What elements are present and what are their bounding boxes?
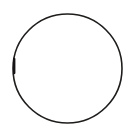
bottom-right-gap-accent (105, 117, 112, 122)
circle-figure (0, 0, 137, 138)
image-canvas: circle-outline Hand-drawn circle outline… (0, 0, 137, 138)
canvas-background (0, 0, 137, 138)
